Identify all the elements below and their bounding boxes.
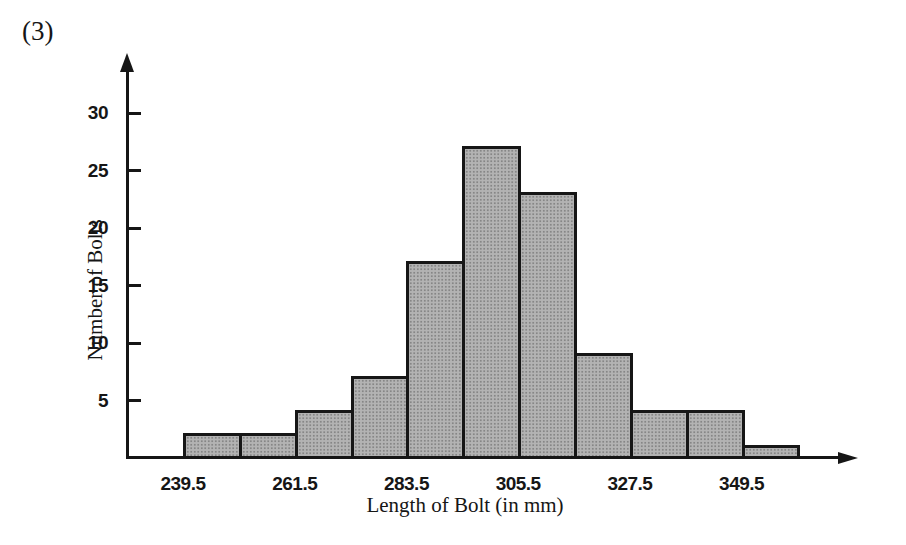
y-axis-arrowhead-icon <box>120 53 134 72</box>
y-axis-tick <box>129 399 141 402</box>
x-axis-title: Length of Bolt (in mm) <box>305 493 625 518</box>
y-axis-tick-label: 20 <box>50 216 108 240</box>
histogram-bar <box>742 445 801 460</box>
y-axis-tick-label: 15 <box>50 274 108 298</box>
y-axis-tick <box>129 227 141 230</box>
y-axis-tick <box>129 284 141 287</box>
y-axis-tick-label: 25 <box>50 159 108 183</box>
histogram-bar <box>351 376 410 460</box>
figure-3-histogram: (3) Number of Bolts 51015202530 239.5261… <box>0 0 906 545</box>
histogram-bar <box>239 433 298 459</box>
x-axis-tick-label: 239.5 <box>138 473 228 495</box>
x-axis-tick-label: 283.5 <box>361 473 451 495</box>
x-axis-tick-label: 305.5 <box>473 473 563 495</box>
histogram-bar <box>686 410 745 459</box>
y-axis-tick-label: 30 <box>50 101 108 125</box>
histogram-bar <box>295 410 354 459</box>
y-axis-tick <box>129 169 141 172</box>
histogram-bar <box>183 433 242 459</box>
histogram-bar <box>574 353 633 460</box>
x-axis-arrowhead-icon <box>838 452 858 464</box>
y-axis-tick-label: 10 <box>50 331 108 355</box>
y-axis-tick <box>129 112 141 115</box>
figure-number-label: (3) <box>22 16 53 47</box>
y-axis-tick <box>129 342 141 345</box>
x-axis-tick-label: 261.5 <box>250 473 340 495</box>
histogram-bar <box>406 261 465 460</box>
histogram-bar <box>462 146 521 460</box>
x-axis-tick-label: 327.5 <box>585 473 675 495</box>
histogram-bar <box>630 410 689 459</box>
histogram-bar <box>518 192 577 460</box>
x-axis-tick-label: 349.5 <box>697 473 787 495</box>
y-axis-tick-label: 5 <box>50 389 108 413</box>
